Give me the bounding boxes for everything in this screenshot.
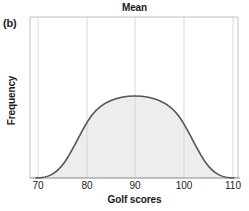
x-tick-label-70: 70 [20, 180, 56, 192]
figure-panel-b: (b) Mean Frequency 70 80 90 100 110 Golf… [0, 0, 249, 211]
x-tick-label-90: 90 [117, 180, 153, 192]
x-tick-label-110: 110 [215, 180, 249, 192]
x-axis-label: Golf scores [30, 194, 239, 206]
x-tick-label-100: 100 [166, 180, 202, 192]
x-tick-label-80: 80 [69, 180, 105, 192]
